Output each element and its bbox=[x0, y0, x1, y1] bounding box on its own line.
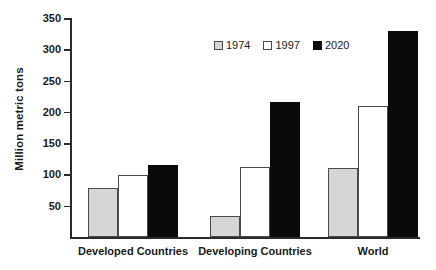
legend-item: 1974 bbox=[214, 39, 250, 51]
legend-label: 2020 bbox=[325, 39, 349, 51]
y-axis-tick-mark bbox=[64, 174, 70, 176]
legend-swatch-icon bbox=[313, 41, 322, 50]
legend-label: 1974 bbox=[226, 39, 250, 51]
y-axis-tick-mark bbox=[64, 81, 70, 83]
x-axis-category-label: Developing Countries bbox=[198, 245, 312, 257]
y-axis-tick-label: 350 bbox=[27, 12, 61, 24]
legend-label: 1997 bbox=[275, 39, 299, 51]
bar bbox=[240, 167, 270, 237]
bar bbox=[358, 106, 388, 237]
legend-item: 1997 bbox=[263, 39, 299, 51]
bar bbox=[148, 165, 178, 237]
x-axis-line bbox=[70, 237, 420, 239]
legend-item: 2020 bbox=[313, 39, 349, 51]
bar bbox=[270, 102, 300, 237]
legend-swatch-icon bbox=[263, 41, 272, 50]
bar bbox=[328, 168, 358, 237]
bar bbox=[88, 188, 118, 237]
legend: 197419972020 bbox=[214, 39, 349, 51]
y-axis-tick-label: 50 bbox=[27, 200, 61, 212]
y-axis-tick-label: 300 bbox=[27, 43, 61, 55]
y-axis-tick-mark bbox=[64, 18, 70, 20]
bar-chart: Million metric tons 50100150200250300350… bbox=[0, 0, 436, 270]
bar bbox=[118, 175, 148, 237]
bar bbox=[388, 31, 418, 237]
y-axis-tick-label: 150 bbox=[27, 137, 61, 149]
y-axis-tick-label: 200 bbox=[27, 106, 61, 118]
y-axis-tick-mark bbox=[64, 49, 70, 51]
bar bbox=[210, 216, 240, 237]
y-axis-tick-label: 250 bbox=[27, 75, 61, 87]
legend-swatch-icon bbox=[214, 41, 223, 50]
y-axis-tick-mark bbox=[64, 112, 70, 114]
y-axis-tick-mark bbox=[64, 143, 70, 145]
x-axis-category-label: Developed Countries bbox=[78, 245, 188, 257]
x-axis-category-label: World bbox=[358, 245, 389, 257]
y-axis-tick-label: 100 bbox=[27, 168, 61, 180]
y-axis-line bbox=[70, 18, 72, 237]
y-axis-title-text: Million metric tons bbox=[13, 67, 25, 171]
y-axis-tick-mark bbox=[64, 206, 70, 208]
